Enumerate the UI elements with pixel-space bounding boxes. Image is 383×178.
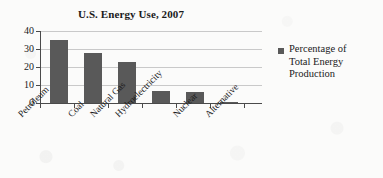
y-tick-30 bbox=[36, 49, 40, 50]
legend-entry-line-3: Production bbox=[289, 68, 383, 81]
legend-entry-label: Percentage of Total Energy Production bbox=[289, 43, 383, 81]
chart-screenshot: U.S. Energy Use, 2007 40 30 20 10 0 Petr bbox=[0, 0, 383, 178]
legend-square-icon bbox=[278, 48, 284, 54]
chart-title: U.S. Energy Use, 2007 bbox=[0, 8, 262, 20]
bar-hydroelectricity[interactable] bbox=[152, 91, 170, 103]
y-axis-label-40: 40 bbox=[0, 26, 34, 36]
bar-petroleum[interactable] bbox=[50, 40, 68, 103]
y-axis-labels: 40 30 20 10 0 bbox=[0, 0, 34, 178]
y-tick-20 bbox=[36, 67, 40, 68]
x-tick-3 bbox=[142, 104, 143, 108]
bar-coal[interactable] bbox=[84, 53, 102, 103]
x-tick-6 bbox=[244, 104, 245, 108]
y-axis-label-10: 10 bbox=[0, 80, 34, 90]
y-tick-10 bbox=[36, 85, 40, 86]
legend-entry-line-2: Total Energy bbox=[289, 56, 383, 69]
y-axis-label-20: 20 bbox=[0, 62, 34, 72]
legend-entry-line-1: Percentage of bbox=[289, 43, 383, 56]
x-tick-0 bbox=[40, 104, 41, 108]
y-axis-label-30: 30 bbox=[0, 44, 34, 54]
y-tick-40 bbox=[36, 31, 40, 32]
